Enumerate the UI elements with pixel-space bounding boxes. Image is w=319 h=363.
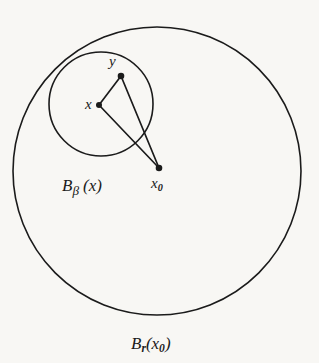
- small-ball-label: Bβ(x): [62, 177, 102, 197]
- small-ball-label-subscript: β: [72, 183, 79, 198]
- small-ball-label-base: B: [62, 176, 72, 195]
- small-ball-label-paren-close: ): [96, 176, 102, 195]
- large-ball-label-paren-close: ): [165, 334, 171, 353]
- large-ball-label-base: B: [131, 334, 141, 353]
- point-label-x-text: x: [85, 96, 92, 112]
- large-ball-circle: [13, 27, 301, 315]
- segment-x-to-y: [99, 76, 121, 105]
- segment-y-to-x0: [121, 76, 159, 168]
- figure-canvas: x y x0 Bβ(x) Br(x0): [0, 0, 319, 363]
- point-dot-y: [118, 73, 125, 80]
- segment-x-to-x0: [99, 105, 159, 168]
- point-dot-x: [96, 102, 102, 108]
- large-ball-label-arg: x: [152, 334, 160, 353]
- point-label-y-text: y: [109, 53, 116, 69]
- point-label-x0: x0: [151, 176, 163, 193]
- point-label-x0-base: x: [151, 175, 158, 191]
- point-label-y: y: [109, 54, 116, 69]
- point-label-x: x: [85, 97, 92, 112]
- point-label-x0-subscript: 0: [158, 182, 163, 193]
- point-dot-x0: [156, 165, 163, 172]
- large-ball-label: Br(x0): [131, 335, 171, 355]
